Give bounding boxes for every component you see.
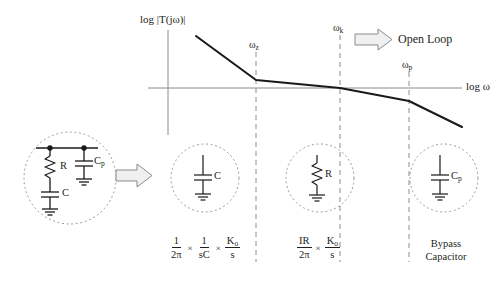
tick-omega-z-sub: z <box>256 43 259 52</box>
circuit-source-boundary <box>24 132 116 224</box>
frac3-num-sub: o <box>234 239 238 248</box>
magnitude-curve <box>196 36 462 127</box>
tick-omega-z-base: ω <box>249 39 256 50</box>
figure-canvas: log |T(jω)| log ω ωz ωk ωp Open Loop R C… <box>0 0 503 293</box>
bypass-caption-line2: Capacitor <box>411 250 481 263</box>
frac3-num: Ko <box>225 235 240 248</box>
component-cp-sub: p <box>101 159 105 168</box>
circuit-capacitor-c-boundary <box>171 144 239 212</box>
circuit-source-group <box>24 132 116 224</box>
formula-capacitor-branch: 1 2π × 1 sC × Ko s <box>169 235 240 260</box>
tick-omega-p-base: ω <box>402 59 409 70</box>
ground-symbol-c <box>42 209 58 215</box>
tick-omega-k-base: ω <box>333 22 340 33</box>
tick-label-omega-k: ωk <box>333 23 343 33</box>
circle2-component-label-c: C <box>214 171 221 182</box>
circle4-cp-sub: p <box>458 174 462 183</box>
circuit-capacitor-cp-boundary <box>410 144 478 212</box>
component-label-cp: Cp <box>94 156 105 167</box>
frac5-num: Ko <box>325 235 340 248</box>
resistor-r3-zigzag-icon <box>312 163 322 185</box>
frac-ko-over-s-2: Ko s <box>325 235 340 260</box>
ground-symbol-circle4 <box>432 194 448 200</box>
formula2-op1: × <box>315 243 322 253</box>
open-loop-label: Open Loop <box>398 33 452 45</box>
decomposition-arrow-icon <box>116 164 152 187</box>
frac-one-over-sc: 1 sC <box>197 235 212 260</box>
frac-one-over-two-pi: 1 2π <box>169 235 184 260</box>
component-label-r: R <box>60 161 67 172</box>
tick-label-omega-z: ωz <box>249 40 259 50</box>
frac5-num-sub: o <box>334 239 338 248</box>
tick-omega-p-sub: p <box>409 63 413 72</box>
circuit-capacitor-c-group <box>171 144 239 212</box>
bypass-caption-line1: Bypass <box>411 237 481 250</box>
circle3-component-label-r: R <box>325 169 332 180</box>
vertical-marker-lines <box>256 35 409 262</box>
frac-ko-over-s: Ko s <box>225 235 240 260</box>
circuit-resistor-r-group <box>286 144 354 212</box>
frac4-den: 2π <box>297 248 312 260</box>
formula1-op2: × <box>215 243 222 253</box>
frac4-num: IR <box>297 235 312 248</box>
tick-label-omega-p: ωp <box>402 60 412 70</box>
tick-omega-k-sub: k <box>340 26 344 35</box>
ground-symbol-circle3 <box>309 195 325 201</box>
frac1-den: 2π <box>169 248 184 260</box>
open-loop-arrow-icon <box>355 29 392 50</box>
frac2-num: 1 <box>200 235 209 248</box>
frac-ir-over-two-pi: IR 2π <box>297 235 312 260</box>
ground-symbol-circle2 <box>195 194 211 200</box>
ground-symbol-cp <box>76 179 92 185</box>
formula-resistor-branch: IR 2π × Ko s <box>297 235 340 260</box>
y-axis-label: log |T(jω)| <box>140 14 186 25</box>
x-axis-label: log ω <box>466 81 490 92</box>
formula1-op1: × <box>187 243 194 253</box>
circle4-cp-base: C <box>451 170 458 181</box>
circle4-component-label-cp: Cp <box>451 171 462 182</box>
frac2-den: sC <box>197 248 212 260</box>
frac1-num: 1 <box>172 235 181 248</box>
resistor-r-zigzag-icon <box>45 156 55 178</box>
frac3-den: s <box>228 248 236 260</box>
frac5-den: s <box>328 248 336 260</box>
circuit-resistor-r-boundary <box>286 144 354 212</box>
circuit-capacitor-cp-group <box>410 144 478 212</box>
component-label-c: C <box>62 188 69 199</box>
component-cp-base: C <box>94 155 101 166</box>
bypass-capacitor-caption: Bypass Capacitor <box>411 237 481 263</box>
